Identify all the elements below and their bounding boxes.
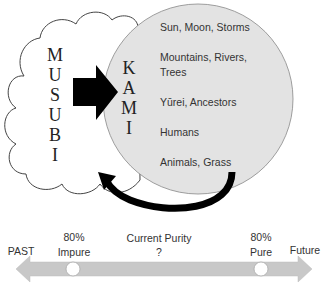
musubi-letter: S <box>47 85 63 105</box>
kami-item-mountains-rivers-trees: Mountains, Rivers, Trees <box>160 50 247 79</box>
timeline-marker-pure-label: 80% Pure <box>243 231 279 259</box>
musubi-letter: U <box>47 105 63 125</box>
kami-item-text: Mountains, Rivers, <box>160 50 247 64</box>
kami-item-text: Trees <box>160 65 247 79</box>
kami-item-text: Yūrei, Ancestors <box>160 96 236 108</box>
marker-title: Current Purity <box>114 232 204 245</box>
kami-item-yurei-ancestors: Yūrei, Ancestors <box>160 95 236 109</box>
musubi-letter: I <box>47 145 63 165</box>
musubi-letter: B <box>47 125 63 145</box>
timeline-future-label: Future <box>285 244 325 257</box>
marker-pure-dot <box>254 262 268 276</box>
timeline-past-label: PAST <box>6 245 36 258</box>
marker-percent: 80% <box>52 231 96 244</box>
kami-item-text: Sun, Moon, Storms <box>160 21 250 33</box>
kami-item-sun-moon-storms: Sun, Moon, Storms <box>160 20 250 34</box>
marker-impure-dot <box>66 262 80 276</box>
musubi-kami-diagram: M U S U B I K A M I Sun, Moon, Storms Mo… <box>0 0 326 289</box>
kami-item-text: Humans <box>160 126 199 138</box>
marker-state: Impure <box>52 246 96 259</box>
marker-state: Pure <box>243 246 279 259</box>
musubi-letter: U <box>47 65 63 85</box>
timeline-marker-impure-label: 80% Impure <box>52 231 96 259</box>
kami-item-text: Animals, Grass <box>160 156 231 168</box>
marker-percent: 80% <box>243 231 279 244</box>
marker-unknown-value: ? <box>114 246 204 259</box>
kami-item-animals-grass: Animals, Grass <box>160 155 231 169</box>
kami-letter: M <box>121 98 137 118</box>
musubi-letter: M <box>47 45 63 65</box>
timeline-double-arrow <box>16 256 312 282</box>
kami-letter: A <box>121 78 137 98</box>
timeline-current-purity-label: Current Purity ? <box>114 232 204 259</box>
kami-letter: I <box>121 118 137 138</box>
kami-letter: K <box>121 58 137 78</box>
kami-item-humans: Humans <box>160 125 199 139</box>
